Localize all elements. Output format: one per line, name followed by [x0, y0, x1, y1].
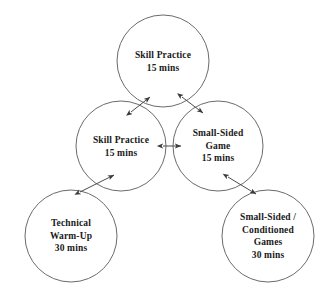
circle-small-sided-game[interactable]	[173, 101, 263, 191]
circle-small-sided-conditioned-games[interactable]	[222, 190, 314, 282]
circle-technical-warm-up[interactable]	[25, 190, 117, 282]
node-circles	[25, 15, 314, 282]
circle-skill-practice-middle[interactable]	[76, 101, 166, 191]
circle-skill-practice-top[interactable]	[117, 15, 209, 107]
diagram-canvas	[0, 0, 330, 292]
session-structure-diagram: Skill Practice 15 mins Skill Practice 15…	[0, 0, 330, 292]
